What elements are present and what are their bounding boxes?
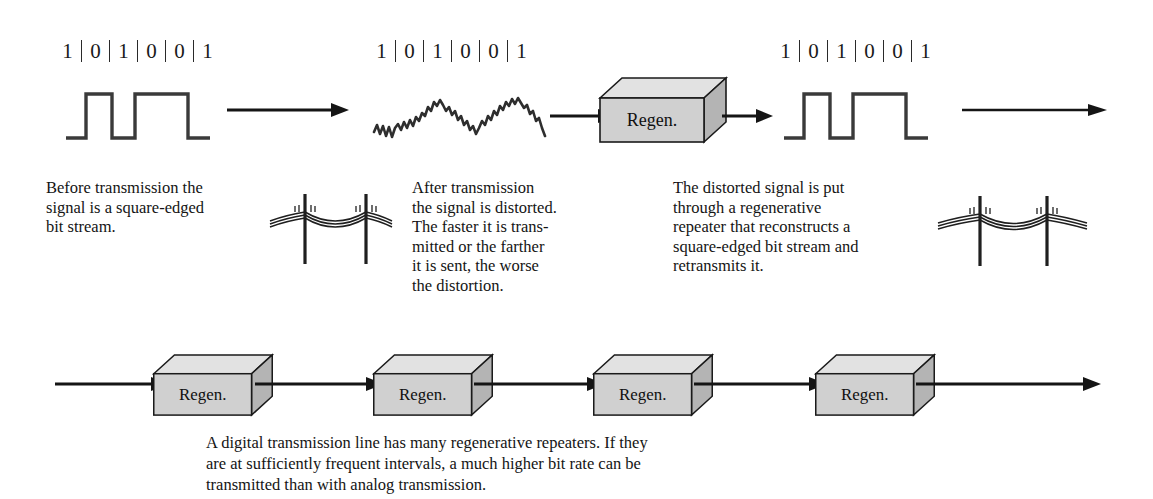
caption-line: the distortion.	[412, 276, 622, 296]
arrow-right-icon	[694, 374, 828, 394]
bit-value: 0	[862, 41, 877, 62]
caption-bottom-summary: A digital transmission line has many reg…	[206, 432, 826, 495]
regen-box[interactable]: Regen.	[596, 70, 730, 150]
bit-separator	[193, 40, 194, 62]
bit-value: 0	[402, 41, 417, 62]
bit-separator	[165, 40, 166, 62]
caption-line: through a regenerative	[673, 198, 913, 218]
bit-value: 1	[514, 41, 529, 62]
caption-regenerative-repeater: The distorted signal is put through a re…	[673, 178, 913, 276]
regen-box-label: Regen.	[841, 385, 888, 404]
bit-value: 1	[374, 41, 389, 62]
arrow-right-icon	[722, 106, 774, 126]
figure-canvas: 1 0 1 0 0 1 1 0 1 0 0 1	[0, 0, 1153, 499]
regen-box-label: Regen.	[619, 385, 666, 404]
bit-value: 0	[88, 41, 103, 62]
telephone-pole-lines-icon	[932, 188, 1090, 268]
bit-value: 0	[458, 41, 473, 62]
caption-line: A digital transmission line has many reg…	[206, 432, 826, 453]
bit-labels-before: 1 0 1 0 0 1	[60, 40, 215, 62]
caption-before-transmission: Before transmission the signal is a squa…	[46, 178, 261, 237]
caption-line: After transmission	[412, 178, 622, 198]
caption-line: are at sufficiently frequent intervals, …	[206, 453, 826, 474]
bit-value: 1	[116, 41, 131, 62]
caption-line: repeater that reconstructs a	[673, 217, 913, 237]
bit-separator	[479, 40, 480, 62]
bit-separator	[507, 40, 508, 62]
caption-line: transmitted than with analog transmissio…	[206, 474, 826, 495]
arrow-right-icon	[225, 100, 350, 120]
bit-value: 1	[778, 41, 793, 62]
caption-line: mitted or the farther	[412, 237, 622, 257]
bit-value: 1	[918, 41, 933, 62]
bit-separator	[855, 40, 856, 62]
bit-value: 0	[144, 41, 159, 62]
telephone-pole-lines-icon	[268, 188, 394, 268]
bit-value: 0	[890, 41, 905, 62]
regen-box-label: Regen.	[627, 110, 677, 130]
bit-separator	[883, 40, 884, 62]
arrow-right-icon	[255, 374, 385, 394]
bit-separator	[827, 40, 828, 62]
bit-value: 1	[200, 41, 215, 62]
square-wave-before	[60, 78, 230, 150]
bit-value: 0	[486, 41, 501, 62]
bit-separator	[423, 40, 424, 62]
bit-separator	[395, 40, 396, 62]
arrow-right-icon	[916, 374, 1102, 394]
caption-line: signal is a square-edged	[46, 198, 261, 218]
square-wave-regenerated	[778, 78, 948, 150]
bit-labels-regenerated: 1 0 1 0 0 1	[778, 40, 933, 62]
caption-after-transmission: After transmission the signal is distort…	[412, 178, 622, 296]
bit-value: 1	[430, 41, 445, 62]
regen-box-label: Regen.	[179, 385, 226, 404]
bit-separator	[109, 40, 110, 62]
bit-separator	[137, 40, 138, 62]
caption-line: Before transmission the	[46, 178, 261, 198]
caption-line: The distorted signal is put	[673, 178, 913, 198]
bit-value: 0	[806, 41, 821, 62]
bit-value: 1	[60, 41, 75, 62]
bit-separator	[911, 40, 912, 62]
regen-box-label: Regen.	[399, 385, 446, 404]
bit-value: 0	[172, 41, 187, 62]
caption-line: The faster it is trans-	[412, 217, 622, 237]
caption-line: it is sent, the worse	[412, 256, 622, 276]
arrow-right-icon	[960, 100, 1108, 120]
bit-value: 1	[834, 41, 849, 62]
bit-separator	[799, 40, 800, 62]
caption-line: bit stream.	[46, 217, 261, 237]
caption-line: square-edged bit stream and	[673, 237, 913, 257]
bit-separator	[81, 40, 82, 62]
arrow-right-icon	[474, 374, 606, 394]
caption-line: retransmits it.	[673, 256, 913, 276]
distorted-wave	[368, 80, 548, 152]
bit-separator	[451, 40, 452, 62]
caption-line: the signal is distorted.	[412, 198, 622, 218]
bit-labels-distorted: 1 0 1 0 0 1	[374, 40, 529, 62]
